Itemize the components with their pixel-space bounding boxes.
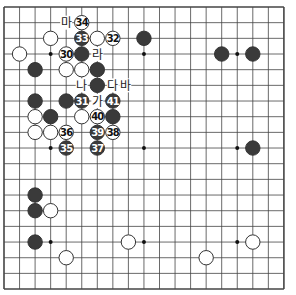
point-label: 마 — [61, 16, 72, 30]
white-stone-40: 40 — [90, 109, 104, 123]
move-number: 37 — [91, 143, 104, 154]
white-stone-38: 38 — [106, 125, 120, 139]
point-label: 가 — [92, 95, 103, 109]
star-point — [142, 52, 146, 56]
move-number: 30 — [60, 49, 73, 60]
black-stone — [75, 47, 89, 61]
star-point — [49, 240, 53, 244]
point-label: 다 — [107, 79, 118, 93]
white-stone — [12, 47, 26, 61]
move-number: 41 — [107, 96, 120, 107]
white-stone — [43, 125, 57, 139]
star-point — [142, 146, 146, 150]
black-stone-35: 35 — [59, 141, 73, 155]
move-number: 35 — [60, 143, 73, 154]
black-stone-33: 33 — [75, 31, 89, 45]
black-stone — [28, 62, 42, 76]
point-label: 나 — [76, 79, 87, 93]
black-stone-31: 31 — [75, 94, 89, 108]
black-stone — [43, 109, 57, 123]
black-stone-41: 41 — [106, 94, 120, 108]
white-stone-34: 34 — [75, 15, 89, 29]
black-stone — [28, 204, 42, 218]
black-stone — [28, 94, 42, 108]
move-number: 36 — [60, 127, 73, 138]
move-number: 39 — [91, 127, 104, 138]
go-board: 343332303141403639383537 마라나다바가 — [0, 0, 296, 295]
point-labels: 마라나다바가 — [60, 16, 131, 109]
star-point — [49, 52, 53, 56]
white-stone — [75, 109, 89, 123]
white-stone — [43, 204, 57, 218]
white-stone — [90, 31, 104, 45]
black-stone — [28, 188, 42, 202]
white-stone — [28, 109, 42, 123]
star-point — [235, 52, 239, 56]
black-stone-37: 37 — [90, 141, 104, 155]
star-point — [235, 146, 239, 150]
black-stone — [106, 109, 120, 123]
move-number: 40 — [91, 111, 104, 122]
black-stone-39: 39 — [90, 125, 104, 139]
move-number: 34 — [76, 17, 89, 28]
black-stone — [59, 94, 73, 108]
white-stone — [75, 62, 89, 76]
white-stone-32: 32 — [106, 31, 120, 45]
move-number: 38 — [107, 127, 120, 138]
point-label: 라 — [92, 48, 103, 62]
move-number: 33 — [76, 33, 89, 44]
white-stone-36: 36 — [59, 125, 73, 139]
white-stone — [59, 62, 73, 76]
move-number: 32 — [107, 33, 120, 44]
star-point — [142, 240, 146, 244]
star-point — [49, 146, 53, 150]
black-stone — [246, 141, 260, 155]
black-stone — [215, 47, 229, 61]
white-stone-30: 30 — [59, 47, 73, 61]
white-stone — [246, 235, 260, 249]
point-label: 바 — [120, 79, 131, 93]
move-number: 31 — [76, 96, 89, 107]
white-stone — [28, 125, 42, 139]
black-stone — [28, 235, 42, 249]
star-point — [235, 240, 239, 244]
white-stone — [59, 251, 73, 265]
black-stone — [90, 62, 104, 76]
black-stone — [137, 31, 151, 45]
white-stone — [199, 251, 213, 265]
black-stone — [246, 47, 260, 61]
white-stone — [43, 31, 57, 45]
white-stone — [121, 235, 135, 249]
black-stone — [90, 78, 104, 92]
